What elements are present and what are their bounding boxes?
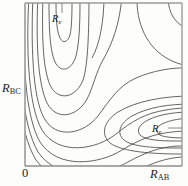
contour-arc-upper-right-outer — [137, 0, 188, 66]
y-axis-label-symbol: R — [2, 81, 10, 95]
contour-level-2-reactant — [49, 0, 80, 69]
contour-saddle-stub — [92, 0, 104, 58]
x-axis-label: RAB — [150, 168, 170, 181]
re-label-reactant-valley: Re — [52, 14, 62, 25]
re-label-product-subscript: e — [158, 128, 161, 135]
y-axis-label: RBC — [2, 82, 21, 95]
x-axis-label-subscript: AB — [158, 173, 170, 182]
origin-label: 0 — [22, 167, 28, 180]
contour-lines-group — [16, 0, 188, 183]
x-axis-label-symbol: R — [150, 167, 158, 181]
contour-level-3-product — [138, 112, 188, 141]
contour-level-9-outer — [16, 20, 188, 183]
contour-plot-canvas — [0, 0, 188, 186]
re-label-reactant-subscript: e — [58, 18, 61, 25]
potential-energy-surface-figure: RBC RAB 0 Re Re — [0, 0, 188, 186]
contour-arc-upper-right-inner — [168, 0, 188, 30]
re-label-product-valley: Re — [152, 124, 162, 135]
y-axis-label-subscript: BC — [10, 87, 21, 96]
